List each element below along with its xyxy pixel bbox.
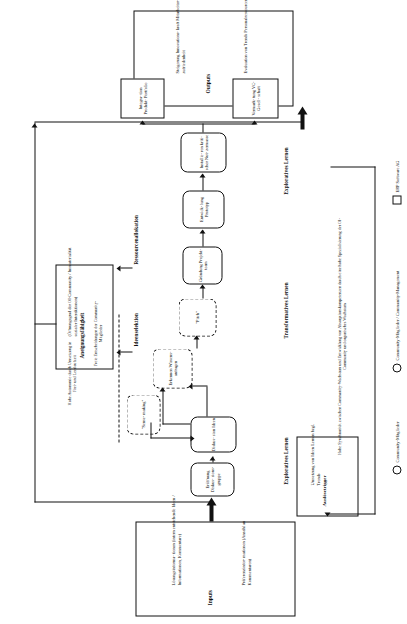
process-step-critical-mass: Installie- ren kriti- scher Nut- zermass…	[180, 132, 226, 172]
trigger-title: Auslösetrigger	[321, 475, 326, 506]
loop-line-6	[150, 437, 192, 438]
arrow-found-to-prototype	[199, 229, 205, 233]
appropriability-top-line	[34, 122, 35, 502]
output-marketing-vc: Vermark- tung VC- Gesell- schaft	[232, 78, 278, 118]
inputs-item-1: Lösungsinforma- tionen (intern entstehen…	[170, 480, 181, 585]
bottom-note-arrow	[324, 512, 330, 516]
process-step-prototype: Entwick- lung Prototyp	[182, 190, 224, 228]
legend-item-erp-software: ERP Software AG	[392, 160, 401, 204]
arrow-recognize-to-pitch	[193, 335, 199, 339]
process-step-found-team-label: Gründung Projekt- team	[197, 247, 207, 283]
bottom-note-line-v	[327, 513, 375, 514]
inputs-box: Inputs Lösungsinforma- tionen (intern en…	[135, 521, 295, 616]
square-icon	[392, 195, 401, 204]
legend-item-community-management-label: Community-Mitglieder / Community-Managem…	[394, 270, 399, 360]
arrow-pitch-to-found	[199, 284, 205, 288]
appropriability-text: (Öffnungsgrad der OI-Community / Immater…	[66, 236, 77, 336]
phase-label-explorative-left: Exploratives Lernen	[282, 437, 288, 484]
loop-line-2	[162, 388, 163, 424]
loop-arrow-3	[190, 435, 194, 441]
resource-alloc-arrow	[116, 265, 120, 271]
process-step-sensemaking: "Sense- making"	[126, 394, 160, 434]
legend-item-community-management: Community-Mitglieder / Community-Managem…	[392, 270, 401, 372]
appropriability-arrow	[31, 123, 37, 127]
inputs-title: Inputs	[206, 589, 213, 605]
resource-alloc-connector-v	[120, 267, 132, 268]
process-step-found-team: Gründung Projekt- team	[182, 246, 222, 284]
trigger-text: Umsetzung von Ideen Lernen bzgl. Trends	[309, 411, 320, 485]
loop-arrow-2	[188, 383, 192, 389]
legend-item-community-members: Community-Mitglieder	[392, 421, 401, 474]
circle-icon	[392, 363, 401, 372]
bottom-note-line-v2	[330, 166, 375, 167]
label-resource-allocation: Ressourcenallokation	[132, 215, 138, 264]
loop-line-3	[206, 386, 207, 416]
phase-label-transformative: Transformatives Lernen	[282, 282, 288, 338]
loop-line-5	[150, 422, 151, 438]
process-step-recognize-knowledge-label: Erkennen Wissens- anfragen	[167, 349, 177, 387]
inputs-item-2: Präferenzinfor- mationen (Anzahl an Komm…	[240, 513, 251, 585]
legend-item-community-members-label: Community-Mitglieder	[394, 421, 399, 462]
outputs-title: Outputs	[204, 73, 210, 93]
process-step-discuss-ideas-label: Diskus- sion Ideen	[210, 417, 215, 451]
process-step-open-discussion-label: Eröffnung Diskus- sions- gruppe	[204, 463, 220, 495]
figure-stage: Inputs Lösungsinforma- tionen (intern en…	[0, 0, 407, 624]
appropriability-left-down	[34, 501, 210, 502]
phase-label-explorative-right: Exploratives Lernen	[282, 147, 288, 194]
diagram-canvas: Inputs Lösungsinforma- tionen (intern en…	[0, 0, 407, 624]
label-idea-selection: Ideenselektion	[132, 313, 138, 346]
idea-selection-arrow	[116, 349, 120, 355]
arrow-prototype-to-mass	[199, 173, 205, 177]
process-step-sensemaking-label: "Sense- making"	[140, 395, 145, 433]
legend-item-erp-software-label: ERP Software AG	[394, 160, 399, 192]
appropriability-box: Aneignungsfähigkeit (Öffnungsgrad der OI…	[55, 264, 113, 369]
idea-selection-connector-v	[120, 351, 132, 352]
loop-line-1	[162, 423, 190, 424]
process-step-critical-mass-label: Installie- ren kriti- scher Nut- zermass…	[198, 133, 208, 171]
line-open-to-discuss	[212, 456, 213, 462]
loop-arrow-1	[159, 387, 165, 391]
loop-line-4	[192, 385, 207, 386]
output-marketing-vc-label: Vermark- tung VC- Gesell- schaft	[250, 79, 260, 117]
trigger-box: Auslösetrigger Umsetzung von Ideen Lerne…	[296, 436, 358, 516]
thick-line-inputs	[209, 503, 213, 521]
annotation-free-decisions: Freie Entscheidungen der Community-Mitgl…	[92, 300, 103, 366]
process-step-open-discussion: Eröffnung Diskus- sions- gruppe	[190, 462, 234, 496]
thick-arrow-outputs	[297, 106, 307, 114]
bottom-note-line-h	[374, 166, 375, 514]
appropriability-left-line	[34, 323, 56, 324]
output-integration-portfolio: Integra- tion Produkt- Portfolio	[120, 78, 164, 118]
process-step-recognize-knowledge: Erkennen Wissens- anfragen	[152, 348, 192, 388]
split-line-v	[142, 123, 254, 124]
outputs-feed-line	[34, 121, 302, 122]
circle-icon	[392, 465, 401, 474]
outputs-item-2: Evaluation von Trends Personalressourcen	[242, 0, 248, 73]
annotation-autonomy: Hohe Autonomie durch Umsetzung in Frei- …	[66, 338, 77, 408]
process-step-discuss-ideas: Diskus- sion Ideen	[190, 416, 236, 452]
output-integration-portfolio-label: Integra- tion Produkt- Portfolio	[137, 79, 147, 117]
process-step-pitch-label: "Pitch"	[194, 299, 199, 335]
annotation-bottom-note: Hohe Synchronität zwischen Community-Wac…	[336, 208, 347, 464]
phase-divider-dashed	[118, 314, 119, 442]
outputs-item-1: Steigerung Innovations- kraft Mitarbeite…	[174, 0, 185, 73]
process-step-pitch: "Pitch"	[178, 298, 216, 336]
process-step-prototype-label: Entwick- lung Prototyp	[198, 191, 208, 227]
appropriability-title: Aneignungsfähigkeit	[78, 312, 84, 358]
